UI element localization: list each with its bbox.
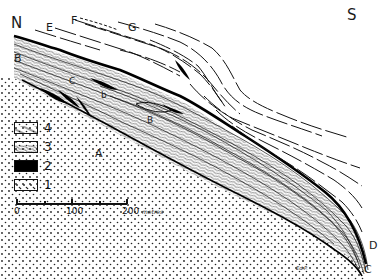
scale-tick <box>16 199 18 204</box>
label-c-lower: C <box>364 264 372 275</box>
author-signature: Ed.P. <box>296 266 308 271</box>
scale-unit: metres <box>142 209 163 215</box>
legend-item-4: 4 <box>14 122 74 138</box>
solid-black-swatch-icon <box>14 160 38 172</box>
scale-tick <box>71 199 73 204</box>
scale-label-100: 100 <box>66 207 83 216</box>
scale-tick <box>44 201 46 204</box>
label-south: S <box>347 8 357 23</box>
scale-bar: 0 100 200 metres <box>14 198 184 218</box>
dots-swatch-icon <box>14 179 38 191</box>
legend-number: 4 <box>44 121 52 135</box>
legend-number: 1 <box>44 178 52 192</box>
scale-label-0: 0 <box>14 207 20 216</box>
cross-section-drawing <box>0 0 384 280</box>
scale-tick <box>99 201 101 204</box>
diagonal-lines-swatch-icon <box>14 122 38 134</box>
legend-item-2: 2 <box>14 160 74 176</box>
scale-tick <box>126 199 128 204</box>
scale-label-200: 200 <box>122 207 139 216</box>
label-e: E <box>46 22 53 33</box>
label-b-lower: b <box>101 91 107 100</box>
legend-item-3: 3 <box>14 141 74 157</box>
label-a: A <box>95 148 103 159</box>
label-north: N <box>11 16 22 31</box>
label-c-upper: C <box>69 77 75 86</box>
label-f: F <box>71 15 77 26</box>
legend-number: 3 <box>44 140 52 154</box>
wavy-lines-swatch-icon <box>14 141 38 153</box>
label-g: G <box>128 22 137 33</box>
legend-number: 2 <box>44 159 52 173</box>
label-d: D <box>369 240 377 251</box>
label-b-upper: B <box>14 53 22 64</box>
legend-item-1: 1 <box>14 179 74 195</box>
label-b-lens: B <box>147 116 153 125</box>
